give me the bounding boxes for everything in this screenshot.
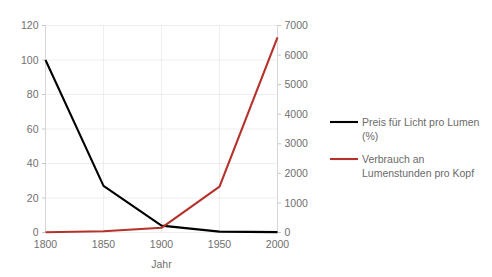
left-axis-tick-label: 0 <box>33 226 39 238</box>
x-axis-tick-label: 1800 <box>34 238 58 250</box>
x-axis-tick-label: 1950 <box>208 238 232 250</box>
left-axis-tick-label: 80 <box>27 88 39 100</box>
right-axis-tickmarks <box>278 26 282 233</box>
chart-legend: Preis für Licht pro Lumen (%) Verbrauch … <box>330 116 479 179</box>
right-axis-tick-label: 4000 <box>285 108 309 120</box>
right-axis-tick-label: 5000 <box>285 78 309 90</box>
right-axis-tick-label: 6000 <box>285 49 309 61</box>
x-axis-tick-label: 1850 <box>92 238 116 250</box>
legend-label-preis-line1: Preis für Licht pro Lumen <box>362 116 479 128</box>
right-axis-tick-label: 1000 <box>285 197 309 209</box>
x-axis-title: Jahr <box>151 258 172 270</box>
left-axis-tick-label: 40 <box>27 157 39 169</box>
right-axis-tick-label: 0 <box>285 226 291 238</box>
x-axis-tick-label: 1900 <box>150 238 174 250</box>
left-axis-tick-label: 20 <box>27 192 39 204</box>
right-axis-tick-label: 2000 <box>285 167 309 179</box>
left-axis-labels: 020406080100120 <box>21 19 39 238</box>
x-axis-tick-label: 2000 <box>266 238 290 250</box>
left-axis-tick-label: 100 <box>21 54 39 66</box>
right-axis-tick-label: 3000 <box>285 137 309 149</box>
line-chart: 020406080100120 010002000300040005000600… <box>0 0 492 277</box>
legend-label-verbrauch-line2: Lumenstunden pro Kopf <box>362 167 474 179</box>
left-axis-tickmarks <box>42 26 46 233</box>
legend-label-preis-line2: (%) <box>362 130 378 142</box>
right-axis-tick-label: 7000 <box>285 19 309 31</box>
left-axis-tick-label: 120 <box>21 19 39 31</box>
x-axis-labels: 18001850190019502000 <box>34 238 290 250</box>
legend-label-verbrauch-line1: Verbrauch an <box>362 153 425 165</box>
chart-container: 020406080100120 010002000300040005000600… <box>0 0 492 277</box>
left-axis-tick-label: 60 <box>27 123 39 135</box>
right-axis-labels: 01000200030004000500060007000 <box>285 19 309 238</box>
